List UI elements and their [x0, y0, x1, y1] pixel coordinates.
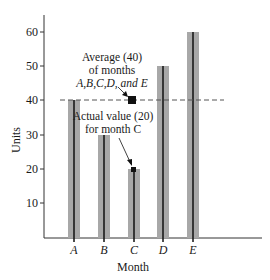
x-tick-label-a: A [69, 243, 78, 257]
x-tick-label-c: C [130, 243, 139, 257]
y-axis-title: Units [9, 127, 23, 153]
actual-value-marker [131, 167, 136, 172]
actual-annotation-line2: for month C [85, 123, 142, 135]
y-tick-label: 50 [26, 59, 38, 73]
average-annotation-line3: A,B,C,D, and E [75, 77, 148, 90]
average-annotation-line2: of months [89, 64, 136, 76]
x-axis-title: Month [117, 260, 149, 274]
average-marker [128, 96, 136, 104]
y-tick-label: 40 [26, 93, 38, 107]
actual-arrowhead [127, 159, 132, 166]
y-tick-label: 60 [26, 25, 38, 39]
x-tick-label-d: D [158, 243, 168, 257]
actual-annotation-line1: Actual value (20) [73, 110, 154, 123]
bar-chart: 60 50 40 30 20 10 Units Average (40) of … [0, 0, 270, 280]
x-tick-label-e: E [188, 243, 197, 257]
y-ticks: 60 50 40 30 20 10 [26, 25, 44, 210]
y-tick-label: 20 [26, 162, 38, 176]
y-tick-label: 30 [26, 128, 38, 142]
y-tick-label: 10 [26, 196, 38, 210]
average-annotation-line1: Average (40) [82, 51, 142, 64]
x-tick-label-b: B [100, 243, 108, 257]
